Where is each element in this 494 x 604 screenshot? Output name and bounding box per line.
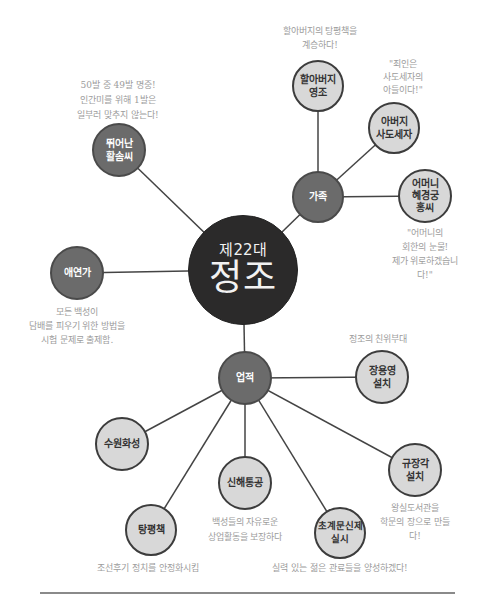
caption-father: "죄인은 사도세자의 아들이다!" bbox=[383, 58, 423, 97]
node-family: 가족 bbox=[292, 171, 344, 223]
node-smoker: 애연가 bbox=[50, 246, 104, 300]
caption-archery: 50발 중 49발 명중! 인간미를 위해 1발은 일부러 맞추지 않는다! bbox=[77, 78, 158, 123]
node-sinhae-tonggong: 신해통공 bbox=[218, 456, 272, 510]
caption-sinhae: 백성들의 자유로운 상업활동을 보장하다 bbox=[208, 515, 283, 545]
node-achievements: 업적 bbox=[218, 351, 272, 405]
node-jangyongyeong: 장용영 설치 bbox=[355, 350, 409, 404]
center-node-jeongjo: 제22대 정조 bbox=[188, 215, 298, 325]
node-gyujanggak: 규장각 설치 bbox=[388, 443, 442, 497]
node-grandfather-yeongjo: 할아버지 영조 bbox=[292, 60, 344, 112]
caption-chogye: 실력 있는 젊은 관료들을 양성하겠다! bbox=[272, 561, 407, 575]
node-mother-hyegyeong: 어머니 혜경궁 홍씨 bbox=[398, 169, 452, 223]
node-father-sado: 아버지 사도세자 bbox=[368, 102, 420, 154]
mind-map: 제22대 정조 가족 할아버지 영조 할아버지의 탕평책을 계승하다! 아버지 … bbox=[0, 0, 494, 604]
caption-jangyongyeong: 정조의 친위부대 bbox=[349, 332, 408, 346]
node-archery: 뛰어난 활솜씨 bbox=[92, 123, 146, 177]
caption-grandfather: 할아버지의 탕평책을 계승하다! bbox=[283, 24, 358, 52]
center-name: 정조 bbox=[209, 258, 277, 298]
node-tangpyeong: 탕평책 bbox=[125, 504, 177, 556]
caption-tangpyeong: 조선후기 정치를 안정화시킴 bbox=[97, 561, 199, 575]
caption-smoker: 모든 백성이 담배를 피우기 위한 방법을 시험 문제로 출제함. bbox=[29, 305, 126, 347]
caption-gyujanggak: 왕실도서관을 학문의 장으로 만들다! bbox=[376, 501, 455, 543]
center-era: 제22대 bbox=[219, 242, 266, 259]
node-chogye-munsin: 초계문신제 실시 bbox=[314, 507, 366, 559]
bottom-divider bbox=[40, 592, 455, 594]
caption-mother: "어머니의 회한의 눈물! 제가 위로하겠습니다!" bbox=[391, 226, 460, 282]
node-suwon-hwaseong: 수원화성 bbox=[95, 417, 149, 471]
